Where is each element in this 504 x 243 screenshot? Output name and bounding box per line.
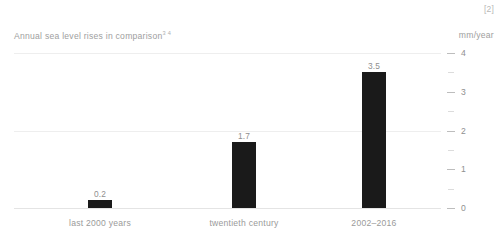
y-tick-minor-0-5 bbox=[448, 189, 454, 190]
y-tick-label-2: 2 bbox=[461, 126, 466, 136]
category-label-last-2000-years: last 2000 years bbox=[40, 218, 160, 228]
y-tick-label-0: 0 bbox=[461, 203, 466, 213]
chart-title-text: Annual sea level rises in comparison bbox=[14, 31, 162, 41]
chart-title: Annual sea level rises in comparison3 4 bbox=[14, 30, 171, 41]
y-tick-3 bbox=[447, 92, 455, 93]
gridline-4 bbox=[14, 53, 441, 54]
sea-level-bar-chart-figure: [2] Annual sea level rises in comparison… bbox=[0, 0, 504, 243]
y-tick-label-4: 4 bbox=[461, 48, 466, 58]
category-label-2002-2016: 2002–2016 bbox=[314, 218, 434, 228]
bar-last-2000-years bbox=[88, 200, 112, 208]
y-tick-1 bbox=[447, 169, 455, 170]
y-tick-minor-3-5 bbox=[448, 72, 454, 73]
gridline-0-baseline bbox=[14, 208, 441, 209]
y-tick-label-3: 3 bbox=[461, 87, 466, 97]
bar-value-twentieth-century: 1.7 bbox=[224, 131, 264, 141]
bar-twentieth-century bbox=[232, 142, 256, 208]
y-tick-4 bbox=[447, 53, 455, 54]
y-tick-minor-2-5 bbox=[448, 111, 454, 112]
category-label-twentieth-century: twentieth century bbox=[184, 218, 304, 228]
y-tick-0 bbox=[447, 208, 455, 209]
y-tick-label-1: 1 bbox=[461, 164, 466, 174]
plot-area: 0.2 1.7 3.5 bbox=[14, 53, 441, 208]
bar-value-2002-2016: 3.5 bbox=[354, 61, 394, 71]
y-tick-minor-1-5 bbox=[448, 150, 454, 151]
bar-2002-2016 bbox=[362, 72, 386, 208]
bar-value-last-2000-years: 0.2 bbox=[80, 189, 120, 199]
y-axis: 4 3 2 1 0 bbox=[441, 0, 504, 243]
y-tick-2 bbox=[447, 131, 455, 132]
chart-title-superscript: 3 4 bbox=[162, 30, 171, 36]
